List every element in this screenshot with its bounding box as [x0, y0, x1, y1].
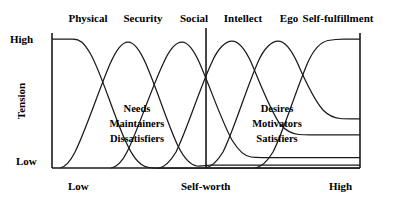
group-label-satisfiers: Satisfiers [256, 133, 297, 145]
stage-label-physical: Physical [68, 12, 107, 24]
y-axis-title: Tension [15, 83, 27, 119]
figure-root: Physical Security Social Intellect Ego S… [0, 0, 396, 204]
curve-security [60, 42, 360, 168]
stage-label-self-fulfillment: Self-fulfillment [303, 12, 374, 24]
group-label-maintainers: Maintainers [110, 118, 165, 130]
x-axis-title: Self-worth [181, 180, 231, 192]
stage-label-ego: Ego [280, 12, 298, 24]
group-label-motivators: Motivators [252, 118, 302, 130]
group-label-desires: Desires [261, 103, 293, 115]
stage-label-intellect: Intellect [224, 12, 262, 24]
group-label-needs: Needs [124, 103, 151, 115]
y-axis-tick-low: Low [16, 155, 37, 167]
stage-label-security: Security [123, 12, 162, 24]
group-label-dissatisfiers: Dissatisfiers [110, 133, 164, 145]
x-axis-tick-high: High [329, 180, 352, 192]
stage-label-social: Social [180, 12, 208, 24]
tension-self-worth-chart [0, 0, 396, 204]
x-axis-tick-low: Low [68, 180, 89, 192]
y-axis-tick-high: High [10, 33, 33, 45]
